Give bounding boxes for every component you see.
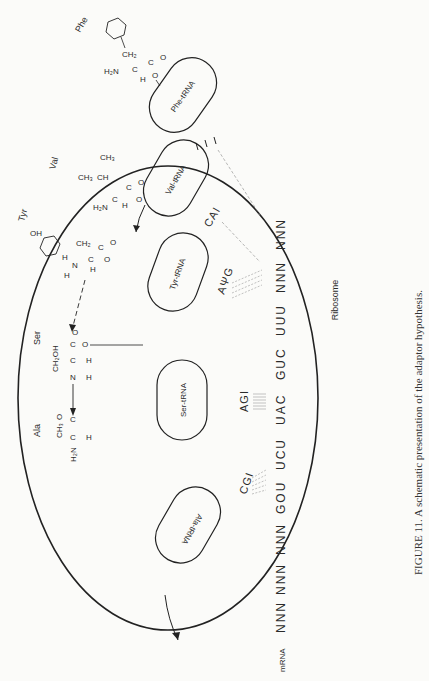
val-pairing-line	[222, 222, 260, 262]
svg-text:C: C	[132, 65, 138, 74]
mrna-label: mRNA	[278, 648, 287, 672]
codon-6: UAC	[274, 394, 288, 425]
phe-amino-acid: Phe CH₂ H₂N C C O H O	[73, 15, 166, 86]
ribosome-label: Ribosome	[330, 280, 340, 321]
svg-text:N: N	[72, 261, 78, 270]
trna-val-anticodon: CAI	[201, 205, 222, 229]
trna-tyr: Tyr-tRNA AΨG	[141, 226, 262, 318]
svg-text:H: H	[140, 75, 146, 84]
codon-5: UCU	[274, 438, 288, 470]
ser-amino-acid: Ser CH₂OH O C C N O H H	[32, 328, 143, 382]
svg-text:H: H	[122, 201, 128, 210]
svg-text:N: N	[70, 373, 76, 382]
svg-text:O: O	[136, 195, 142, 204]
svg-text:CH₂OH: CH₂OH	[51, 345, 60, 372]
svg-text:O: O	[55, 414, 64, 420]
ribosome-outline	[18, 166, 318, 630]
svg-text:H: H	[86, 356, 92, 365]
phe-label: Phe	[73, 15, 90, 34]
trna-tyr-anticodon: AΨG	[215, 265, 236, 296]
svg-text:O: O	[82, 340, 88, 349]
svg-text:H: H	[86, 433, 92, 442]
mrna-strand: mRNA NNN NNN NNN GOU UCU UAC GUC UUU NNN…	[274, 218, 288, 672]
codon-9: NNN	[274, 261, 288, 293]
trna-ala-label: Ala-tRNA	[180, 513, 205, 547]
codon-1: NNN	[274, 601, 288, 633]
trna-ala-anticodon: CGI	[237, 470, 256, 495]
svg-text:C: C	[126, 183, 132, 192]
codon-2: NNN	[274, 563, 288, 595]
svg-text:CH₂: CH₂	[76, 239, 91, 248]
codon-10: NNN	[274, 218, 288, 250]
ala-pairing-lines	[252, 470, 266, 494]
trna-tyr-label: Tyr-tRNA	[168, 257, 188, 292]
trna-ala: Ala-tRNA CGI	[146, 470, 266, 572]
exit-arrowhead-icon	[172, 632, 180, 640]
svg-text:C: C	[88, 255, 94, 264]
val-amino-acid: Val CH₃ CH₃ CH H₂N C C O H O	[47, 153, 144, 212]
svg-text:C: C	[148, 58, 154, 67]
svg-text:H₂N: H₂N	[69, 447, 78, 462]
arrowhead-icon	[133, 225, 140, 232]
svg-text:H: H	[86, 373, 92, 382]
codon-7: GUC	[274, 347, 288, 380]
svg-text:O: O	[104, 255, 110, 264]
codon-4: GOU	[274, 481, 288, 514]
svg-text:H: H	[64, 271, 70, 280]
svg-text:O: O	[72, 328, 78, 337]
svg-text:O: O	[152, 71, 158, 80]
phe-anticodon-ticks	[196, 137, 216, 150]
svg-text:C: C	[70, 415, 76, 424]
ala-amino-acid: Ala CH₃ O C C H H₂N	[32, 414, 92, 462]
svg-text:CH: CH	[97, 173, 109, 182]
codon-3: NNN	[274, 523, 288, 555]
ser-pairing-lines	[253, 394, 266, 409]
val-label: Val	[47, 156, 60, 171]
trna-ser: Ser-tRNA AGI	[157, 360, 266, 440]
svg-text:O: O	[160, 53, 166, 62]
tyr-pairing-lines	[232, 270, 262, 298]
tyr-label: Tyr	[16, 208, 29, 223]
svg-text:O: O	[110, 238, 116, 247]
tyr-amino-acid: Tyr OH CH₂ N C C O O H H H	[16, 208, 116, 280]
adaptor-hypothesis-figure: Ribosome mRNA NNN NNN NNN GOU UCU UAC GU…	[0, 0, 429, 681]
trna-phe-label: Phe-tRNA	[169, 79, 197, 114]
svg-text:O: O	[138, 178, 144, 187]
trna-val-label: Val-tRNA	[164, 163, 188, 196]
ala-label: Ala	[32, 424, 42, 437]
svg-text:CH₃: CH₃	[55, 423, 64, 438]
ser-label: Ser	[32, 331, 42, 345]
svg-text:CH₃: CH₃	[100, 153, 115, 162]
svg-text:H: H	[62, 253, 68, 262]
codon-8: UUU	[274, 304, 288, 336]
trna-ser-label: Ser-tRNA	[179, 382, 188, 417]
svg-text:H₂N: H₂N	[104, 67, 119, 76]
phe-benzene-ring-icon	[106, 18, 126, 39]
svg-text:C: C	[112, 195, 118, 204]
trna-ala-body	[146, 478, 229, 572]
figure-caption: FIGURE 11. A schematic presentation of t…	[412, 290, 424, 575]
svg-text:CH₃: CH₃	[78, 173, 93, 182]
svg-text:C: C	[70, 356, 76, 365]
peptide-transfer-arrow	[72, 280, 85, 330]
svg-text:H₂N: H₂N	[93, 203, 108, 212]
svg-text:C: C	[70, 433, 76, 442]
svg-text:C: C	[70, 340, 76, 349]
svg-text:C: C	[98, 243, 104, 252]
trna-ser-anticodon: AGI	[238, 390, 250, 412]
svg-text:OH: OH	[30, 229, 42, 238]
svg-text:H: H	[90, 265, 96, 274]
svg-text:CH₂: CH₂	[122, 50, 137, 59]
